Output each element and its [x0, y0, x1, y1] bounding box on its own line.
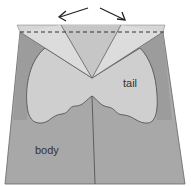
body-label: body — [35, 144, 59, 156]
fold-diagram: tail body — [0, 0, 191, 186]
arrow-right-icon — [100, 8, 125, 20]
tail-label: tail — [123, 77, 137, 89]
arrow-left-icon — [59, 8, 88, 21]
